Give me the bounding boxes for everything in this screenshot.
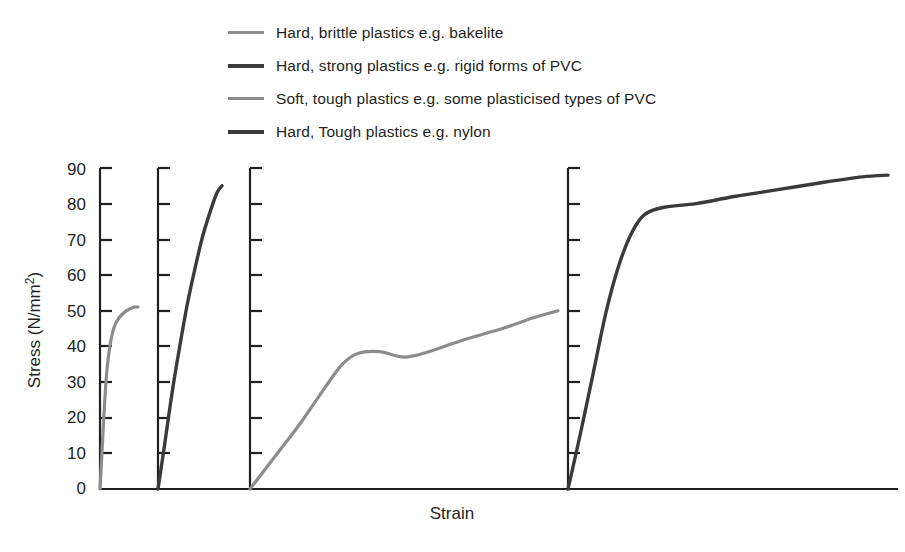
curve-hard-tough-nylon xyxy=(568,175,888,489)
chart-figure: Hard, brittle plastics e.g. bakelite Har… xyxy=(0,0,905,552)
y-tick-label-30: 30 xyxy=(67,373,86,392)
svg-text:Stress (N/mm2): Stress (N/mm2) xyxy=(23,272,44,388)
curve-hard-strong xyxy=(158,186,222,489)
curve-soft-tough xyxy=(250,311,558,489)
curve-hard-brittle xyxy=(100,307,138,489)
panel-brittle xyxy=(100,168,138,489)
panel-hard-tough xyxy=(568,168,888,489)
y-tick-label-40: 40 xyxy=(67,337,86,356)
y-axis-title: Stress (N/mm2) xyxy=(23,272,44,388)
y-tick-label-0: 0 xyxy=(77,479,86,498)
y-tick-label-70: 70 xyxy=(67,231,86,250)
x-axis-title: Strain xyxy=(430,504,474,523)
panel-soft-tough xyxy=(250,168,558,489)
y-tick-label-90: 90 xyxy=(67,160,86,179)
y-tick-label-80: 80 xyxy=(67,195,86,214)
y-axis-title-main: Stress (N/mm xyxy=(25,284,44,388)
y-tick-label-20: 20 xyxy=(67,408,86,427)
y-tick-label-50: 50 xyxy=(67,302,86,321)
y-tick-label-60: 60 xyxy=(67,266,86,285)
y-tick-label-10: 10 xyxy=(67,444,86,463)
panel-strong xyxy=(158,168,222,489)
y-axis-title-tail: ) xyxy=(25,272,44,278)
plot-area: 90 80 70 60 50 40 30 20 10 0 Stress (N/m… xyxy=(0,0,905,552)
